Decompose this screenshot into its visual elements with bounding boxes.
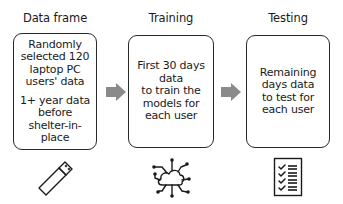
text-line: before: [20, 107, 90, 120]
arrow-right-icon: [221, 83, 241, 101]
stage-title-data-frame: Data frame: [13, 11, 97, 25]
training-box: First 30 days data to train the models f…: [128, 35, 214, 148]
stage-title-training: Training: [128, 11, 214, 25]
text-line: place: [20, 132, 90, 145]
text-line: each user: [137, 110, 205, 123]
text-line: selected 120: [21, 51, 90, 64]
text-line: First 30 days: [137, 60, 205, 73]
text-line: to train the: [137, 85, 205, 98]
cloud-network-icon: [148, 156, 196, 200]
text-line: users' data: [21, 76, 90, 89]
testing-paragraph-1: Remaining days data to test for each use…: [260, 67, 317, 117]
text-line: days data: [260, 79, 317, 92]
arrow-right-icon: [106, 83, 126, 101]
data-frame-box: Randomly selected 120 laptop PC users' d…: [13, 33, 97, 150]
stage-title-testing: Testing: [246, 11, 330, 25]
usb-drive-icon: [36, 160, 76, 198]
training-paragraph-1: First 30 days data to train the models f…: [137, 60, 205, 123]
checklist-icon: [273, 157, 303, 197]
data-frame-paragraph-1: Randomly selected 120 laptop PC users' d…: [21, 39, 90, 89]
data-frame-paragraph-2: 1+ year data before shelter-in- place: [20, 95, 90, 145]
text-line: each user: [260, 104, 317, 117]
testing-box: Remaining days data to test for each use…: [246, 35, 330, 148]
